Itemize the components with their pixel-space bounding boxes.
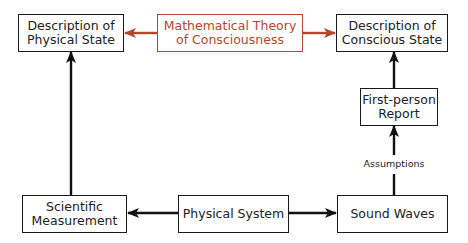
node-description-of-conscious-state: Description of Conscious State [336,14,448,52]
node-physical-system: Physical System [178,195,289,233]
node-first-person-report: First-person Report [360,88,438,126]
edge-label-assumptions: Assumptions [362,158,426,169]
node-description-of-physical-state: Description of Physical State [18,14,124,52]
node-sound-waves: Sound Waves [337,195,448,233]
node-mathematical-theory-of-consciousness: Mathematical Theory of Consciousness [157,14,303,52]
node-scientific-measurement: Scientific Measurement [22,195,127,233]
